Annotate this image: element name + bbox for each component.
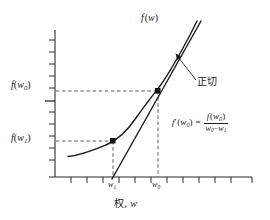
formula-numerator: f (w0) [205,112,227,123]
point-w0-marker [155,88,161,94]
x-tick-label-w1: w1 [108,181,116,190]
formula-denominator: w0−w1 [204,124,229,134]
y-label-f-w1-var: w [17,132,24,143]
formula-lhs-paren-close: ) [189,117,192,127]
formula-num-fn: f [207,111,210,121]
plot-svg [0,0,270,220]
x-axis-title-cn: 权 [114,198,124,209]
derivative-formula: f′ (w0) = f (w0) w0−w1 [172,112,228,134]
formula-den-var2: w [218,124,223,133]
y-label-f-w1: f(w1) [11,133,31,145]
y-axis-ticks [45,40,55,160]
y-label-f-w0-paren-close: ) [27,79,30,90]
formula-num-paren-close: ) [222,111,225,121]
formula-lhs: f′ (w0) [172,118,192,128]
formula-equals: = [195,118,200,127]
x-axis-title-var: w [130,198,137,209]
curve-label: f (w) [141,13,158,23]
formula-fraction: f (w0) w0−w1 [204,112,229,134]
tangent-callout-label: 正切 [197,77,217,87]
function-curve [68,21,197,157]
y-label-f-w1-paren-close: ) [27,132,30,143]
x-axis-ticks [71,177,252,183]
curve-label-fn: f [141,12,144,23]
x-tick-label-w0-sub: 0 [157,184,160,190]
marked-points [110,88,161,144]
tangent-callout-arrow [176,54,197,81]
curve-label-paren-close: ) [155,12,158,23]
formula-den-sub2: 1 [224,127,227,133]
figure-canvas: f(w0) f(w1) w1 w0 f (w) 正切 权, w f′ (w0) … [0,0,270,220]
x-tick-label-w1-sub: 1 [113,184,116,190]
x-axis-title: 权, w [114,199,137,209]
y-label-f-w0: f(w0) [11,80,31,92]
curve-label-var: w [148,12,155,23]
x-tick-label-w0: w0 [152,181,160,190]
point-w1-marker [110,138,116,144]
tangent-line [112,21,201,179]
guide-lines [56,91,158,177]
y-label-f-w0-var: w [17,79,24,90]
